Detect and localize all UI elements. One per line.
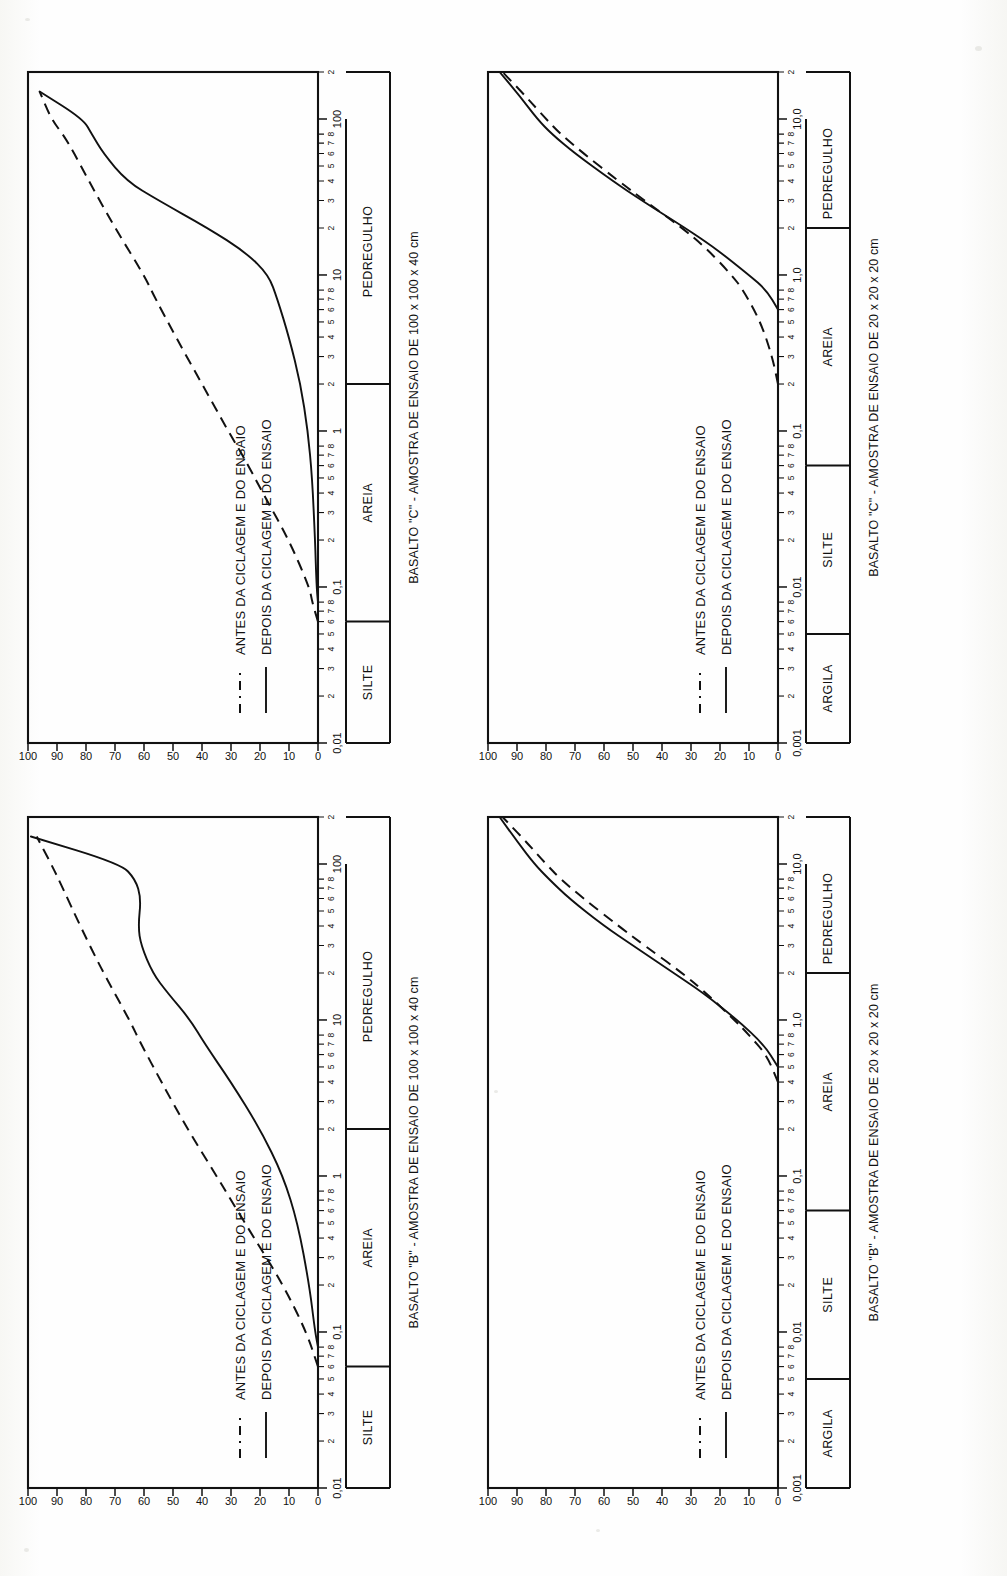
x-tick-minor-label: 2 [326,1438,336,1443]
x-tick-minor-label: 8 [326,876,336,881]
x-tick-minor-label: 2 [326,225,336,230]
x-tick-minor-label: 6 [786,151,796,156]
x-tick-minor-label: 2 [326,69,336,74]
x-tick-minor-label: 6 [326,307,336,312]
x-tick-minor-label: 7 [786,297,796,302]
y-tick-label: 60 [598,750,610,762]
legend-label: ANTES DA CICLAGEM E DO ENSAIO [693,1170,708,1400]
y-tick-label: 80 [540,750,552,762]
x-tick-minor-label: 2 [326,1282,336,1287]
x-tick-minor-label: 4 [326,178,336,183]
legend-label: DEPOIS DA CICLAGEM E DO ENSAIO [259,419,274,655]
x-tick-minor-label: 8 [326,1188,336,1193]
x-tick-minor-label: 8 [786,443,796,448]
x-tick-minor-label: 6 [326,1208,336,1213]
x-tick-minor-label: 6 [786,1052,796,1057]
plot-frame [488,817,778,1488]
x-tick-label: 1,0 [791,1012,803,1027]
x-tick-minor-label: 5 [326,1064,336,1069]
y-tick-label: 90 [51,1495,63,1507]
scan-speck [25,18,30,21]
x-tick-minor-label: 3 [326,198,336,203]
x-tick-minor-label: 6 [326,619,336,624]
y-tick-label: 70 [569,1495,581,1507]
y-tick-label: 20 [714,1495,726,1507]
y-tick-label: 0 [315,750,321,762]
x-tick-label: 0,01 [791,1321,803,1342]
y-tick-label: 30 [685,1495,697,1507]
x-tick-minor-label: 4 [326,923,336,928]
chart-title: BASALTO "B" - AMOSTRA DE ENSAIO DE 20 x … [867,984,881,1322]
y-tick-label: 20 [254,1495,266,1507]
legend-label: DEPOIS DA CICLAGEM E DO ENSAIO [719,1164,734,1400]
legend-label: ANTES DA CICLAGEM E DO ENSAIO [693,425,708,655]
y-tick-label: 10 [283,1495,295,1507]
x-tick-minor-label: 2 [326,693,336,698]
y-tick-label: 70 [109,1495,121,1507]
plot-frame [488,72,778,743]
chart-title: BASALTO "B" - AMOSTRA DE ENSAIO DE 100 x… [407,977,421,1329]
x-tick-minor-label: 8 [326,599,336,604]
x-tick-minor-label: 8 [326,1344,336,1349]
x-tick-minor-label: 5 [326,1376,336,1381]
chart-panel-bottom-right: 0,00123456780,0123456780,123456781,02345… [478,805,888,1540]
x-tick-minor-label: 6 [326,1052,336,1057]
x-tick-minor-label: 2 [786,69,796,74]
category-label: AREIA [821,1072,835,1112]
y-tick-label: 30 [225,750,237,762]
chart-title: BASALTO "C" - AMOSTRA DE ENSAIO DE 20 x … [867,238,881,577]
curve-depois [31,837,318,1348]
x-tick-minor-label: 3 [786,1255,796,1260]
x-tick-minor-label: 3 [326,354,336,359]
category-label: AREIA [361,1228,375,1268]
x-tick-minor-label: 2 [326,814,336,819]
x-tick-minor-label: 2 [786,1126,796,1131]
x-tick-minor-label: 7 [326,453,336,458]
chart-panel-top-left: 0,0123456780,123456781234567810234567810… [18,60,428,795]
category-label: AREIA [821,327,835,367]
x-tick-minor-label: 8 [326,1032,336,1037]
x-tick-minor-label: 5 [326,319,336,324]
chart-rotation-wrapper: 0,00123456780,0123456780,123456781,02345… [478,60,888,795]
x-tick-minor-label: 3 [786,510,796,515]
x-tick-minor-label: 8 [786,1344,796,1349]
chart-rotation-wrapper: 0,0123456780,123456781234567810234567810… [18,805,428,1540]
y-tick-label: 50 [167,1495,179,1507]
x-tick-label: 100 [331,855,343,873]
y-tick-label: 30 [225,1495,237,1507]
x-tick-minor-label: 5 [326,475,336,480]
y-tick-label: 100 [479,750,497,762]
x-tick-minor-label: 6 [786,896,796,901]
x-tick-minor-label: 3 [786,1411,796,1416]
x-tick-label: 0,001 [791,729,803,757]
x-tick-label: 0,001 [791,1474,803,1502]
x-tick-minor-label: 4 [786,490,796,495]
scan-speck [24,1548,29,1552]
x-tick-minor-label: 7 [786,609,796,614]
x-tick-minor-label: 7 [326,609,336,614]
y-tick-label: 0 [315,1495,321,1507]
x-tick-minor-label: 8 [786,1032,796,1037]
category-label: PEDREGULHO [361,951,375,1043]
y-tick-label: 90 [511,750,523,762]
x-tick-minor-label: 6 [326,1364,336,1369]
category-label: SILTE [821,532,835,568]
x-tick-minor-label: 8 [786,876,796,881]
x-tick-minor-label: 7 [786,1354,796,1359]
chart-rotation-wrapper: 0,0123456780,123456781234567810234567810… [18,60,428,795]
x-tick-minor-label: 8 [786,287,796,292]
y-tick-label: 60 [598,1495,610,1507]
x-tick-minor-label: 5 [326,631,336,636]
x-tick-minor-label: 6 [786,619,796,624]
curve-antes [40,92,318,622]
category-label: ARGILA [821,664,835,713]
x-tick-minor-label: 7 [326,1198,336,1203]
x-tick-minor-label: 3 [326,1255,336,1260]
x-tick-minor-label: 3 [326,943,336,948]
x-tick-minor-label: 3 [786,354,796,359]
chart-title: BASALTO "C" - AMOSTRA DE ENSAIO DE 100 x… [407,231,421,584]
x-tick-minor-label: 6 [786,463,796,468]
x-tick-minor-label: 2 [786,970,796,975]
x-tick-minor-label: 8 [786,1188,796,1193]
x-tick-minor-label: 5 [786,631,796,636]
